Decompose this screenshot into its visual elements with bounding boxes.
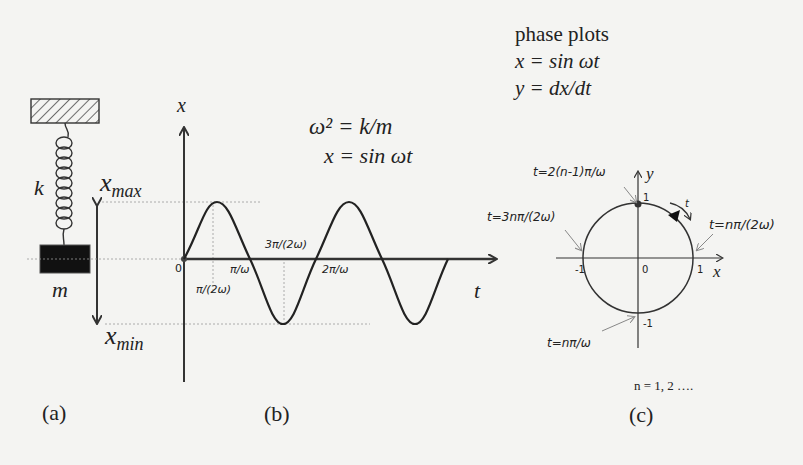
- xmax-base: x: [100, 168, 112, 197]
- sine-curve: [184, 202, 448, 324]
- equation-omega: ω² = k/m: [309, 115, 392, 138]
- spring-coil: [56, 123, 72, 245]
- caption-a: (a): [42, 402, 66, 424]
- spring-constant-label: k: [34, 177, 44, 199]
- caption-b: (b): [264, 403, 290, 425]
- xmax-sub: max: [112, 181, 142, 201]
- tick-2pi-over-w: 2π/ω: [322, 264, 349, 275]
- origin-label: 0: [175, 263, 182, 274]
- n-values-note: n = 1, 2 ….: [634, 379, 693, 392]
- tick-3pi-over-2w: 3π/(2ω): [265, 239, 307, 250]
- tick-pi-over-w: π/ω: [230, 264, 250, 275]
- xmin-base: x: [105, 321, 117, 350]
- mass-label: m: [52, 279, 68, 301]
- phase-eq-x: x = sin ωt: [515, 51, 599, 72]
- phase-x-pos-tick: 1: [697, 265, 703, 275]
- phase-y-label: y: [646, 165, 654, 182]
- annotation-left: t=3nπ/(2ω): [487, 211, 555, 223]
- diagram-canvas: [0, 0, 803, 465]
- t-axis-label: t: [474, 280, 480, 302]
- equation-x: x = sin ωt: [324, 145, 412, 167]
- phase-plot-title: phase plots: [515, 24, 609, 45]
- phase-eq-y: y = dx/dt: [515, 78, 591, 99]
- phase-y-pos-tick: 1: [643, 193, 649, 203]
- x-axis-label: x: [177, 95, 186, 115]
- phase-x-neg-tick: -1: [575, 265, 585, 275]
- phase-x-label: x: [713, 263, 721, 280]
- annotation-bottom: t=nπ/ω: [547, 337, 591, 349]
- annotation-right: t=nπ/(2ω): [709, 218, 775, 231]
- ceiling-support: [31, 99, 99, 123]
- phase-origin-label: 0: [642, 265, 648, 275]
- caption-c: (c): [629, 404, 653, 426]
- xmax-label: xmax: [100, 170, 142, 200]
- xmin-label: xmin: [105, 323, 144, 353]
- tick-pi-over-2w: π/(2ω): [196, 284, 231, 295]
- direction-t-label: t: [685, 199, 689, 209]
- xmin-sub: min: [117, 334, 144, 354]
- annotation-top: t=2(n-1)π/ω: [533, 166, 606, 178]
- phase-y-neg-tick: -1: [643, 319, 653, 329]
